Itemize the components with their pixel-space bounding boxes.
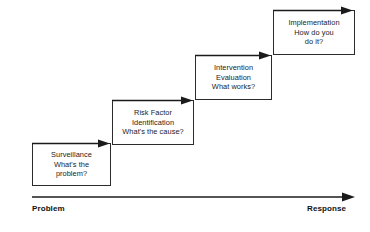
axis-label-response: Response [307,204,346,213]
stage-label-surveillance: Surveillance What's the problem? [49,150,94,179]
stage-box-surveillance[interactable]: Surveillance What's the problem? [32,143,111,186]
staircase-diagram: Implementation How do you do it? Interve… [0,0,370,232]
progress-axis [32,192,357,202]
stage-box-intervention-evaluation[interactable]: Intervention Evaluation What works? [195,55,272,100]
stage-label-implementation: Implementation How do you do it? [286,18,341,47]
stage-label-intervention-evaluation: Intervention Evaluation What works? [210,63,257,92]
stage-label-risk-factor-identification: Risk Factor Identification What's the ca… [120,108,185,137]
axis-label-problem: Problem [32,204,65,213]
stage-box-implementation[interactable]: Implementation How do you do it? [273,10,355,55]
stage-box-risk-factor-identification[interactable]: Risk Factor Identification What's the ca… [112,100,194,145]
